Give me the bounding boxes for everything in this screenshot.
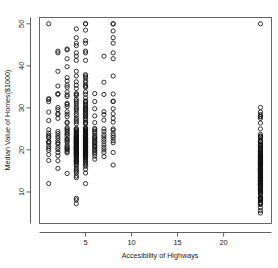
x-tick-label: 5 [83, 238, 87, 247]
y-tick-label: 10 [18, 188, 27, 196]
y-tick-label: 50 [18, 20, 27, 28]
x-tick-label: 20 [220, 238, 228, 247]
x-tick-label: 15 [173, 238, 181, 247]
x-axis-title: Accesibility of Highways [122, 251, 199, 260]
x-tick-label: 10 [127, 238, 135, 247]
y-tick-label: 40 [18, 62, 27, 70]
plot-canvas: 5101520 1020304050 Accesibility of Highw… [0, 0, 278, 268]
figure-background [0, 0, 278, 268]
y-tick-label: 30 [18, 104, 27, 112]
scatter-plot-figure: 5101520 1020304050 Accesibility of Highw… [0, 0, 278, 268]
y-axis-title: Median Value of Homes($1000) [3, 70, 12, 171]
y-tick-label: 20 [18, 146, 27, 154]
